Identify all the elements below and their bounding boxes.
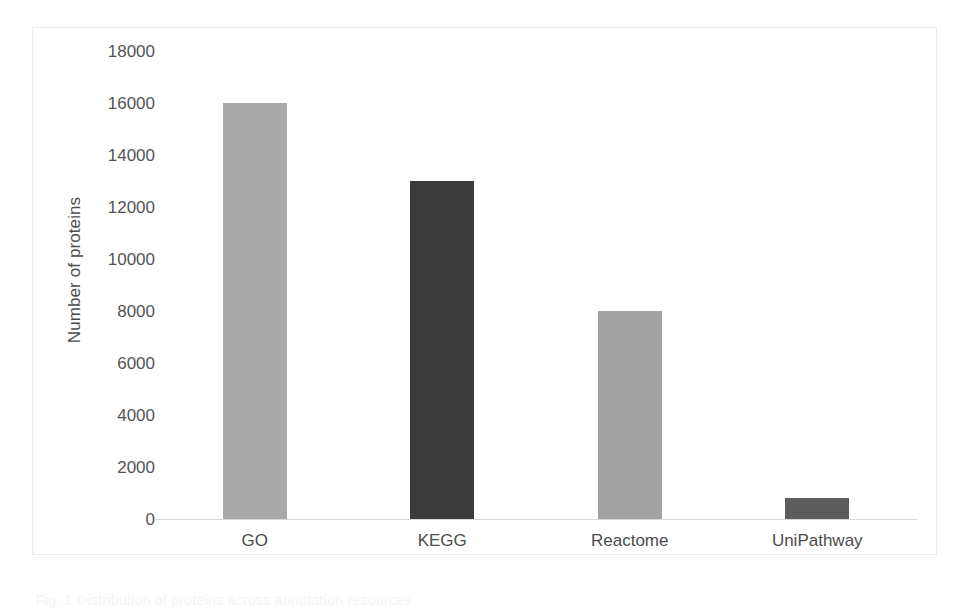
x-axis-tick-labels: GOKEGGReactomeUniPathway: [161, 531, 911, 561]
bar-unipathway: [785, 498, 849, 519]
x-axis-tick-label: KEGG: [418, 531, 467, 551]
plot-area: [161, 51, 911, 519]
y-axis-tick-label: 10000: [69, 251, 155, 268]
y-axis-tick-label: 12000: [69, 199, 155, 216]
bar-kegg: [410, 181, 474, 519]
caption-fragment: Fig. 1 Distribution of proteins across a…: [36, 592, 412, 608]
chart-frame: Number of proteins 020004000600080001000…: [32, 27, 937, 555]
x-axis-tick-label: GO: [242, 531, 268, 551]
x-axis-tick-label: UniPathway: [772, 531, 863, 551]
x-axis-tick-label: Reactome: [591, 531, 668, 551]
y-axis-tick-label: 18000: [69, 43, 155, 60]
y-axis-tick-label: 14000: [69, 147, 155, 164]
x-axis-line: [155, 519, 917, 520]
y-axis-tick-label: 6000: [69, 355, 155, 372]
y-axis-tick-label: 16000: [69, 95, 155, 112]
y-axis-tick-label: 4000: [69, 407, 155, 424]
bar-go: [223, 103, 287, 519]
bar-reactome: [598, 311, 662, 519]
y-axis-tick-label: 2000: [69, 459, 155, 476]
y-axis-tick-label: 8000: [69, 303, 155, 320]
y-axis-tick-labels: 0200040006000800010000120001400016000180…: [61, 51, 155, 519]
y-axis-tick-label: 0: [69, 511, 155, 528]
